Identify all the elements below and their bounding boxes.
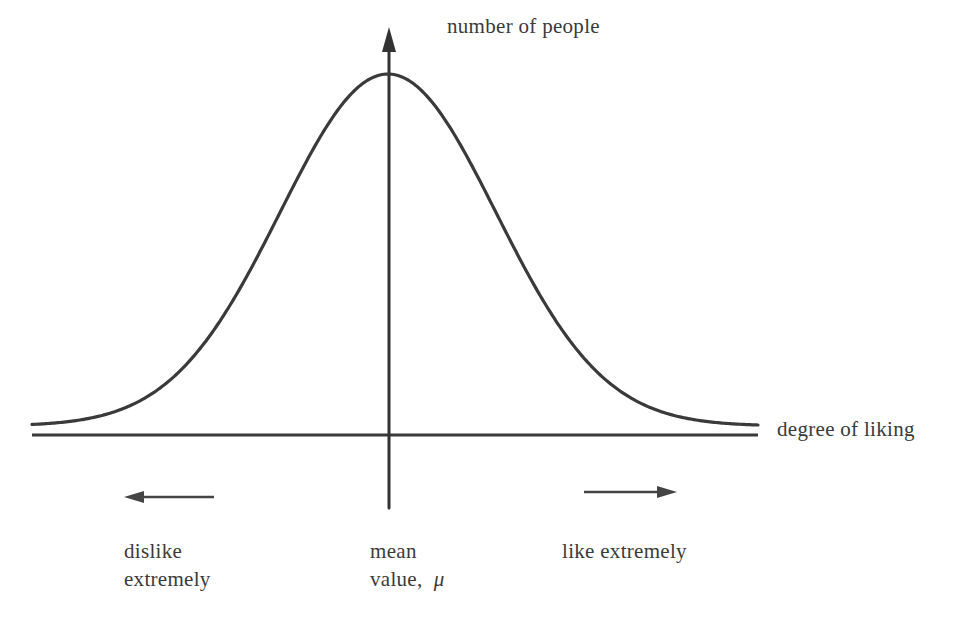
mu-symbol: μ — [434, 567, 445, 591]
mean-label-line2: value, μ — [370, 565, 444, 593]
y-axis-arrow-icon — [382, 27, 396, 52]
x-axis-label: degree of liking — [777, 415, 915, 443]
like-label: like extremely — [562, 537, 687, 565]
normal-distribution-curve — [32, 74, 758, 425]
dislike-label: dislike extremely — [124, 537, 211, 593]
dislike-label-line2: extremely — [124, 565, 211, 593]
dislike-label-line1: dislike — [124, 537, 211, 565]
bell-curve-figure — [0, 0, 970, 625]
y-axis-label: number of people — [447, 12, 600, 40]
right-arrow-icon — [657, 486, 677, 498]
mean-label: mean value, μ — [370, 537, 444, 593]
left-arrow-icon — [124, 491, 144, 503]
mean-label-value-text: value, — [370, 567, 423, 591]
mean-label-line1: mean — [370, 537, 444, 565]
